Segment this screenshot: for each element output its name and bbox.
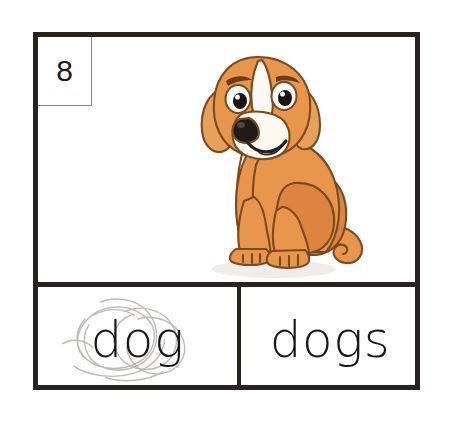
answer-option-1-label: dog — [91, 315, 185, 365]
answer-option-2-label: dogs — [270, 315, 390, 365]
dog-illustration: .ol { stroke:#7A4A21; stroke-width:2.1; … — [148, 43, 378, 287]
answer-row: dog dogs — [38, 287, 415, 385]
card-number-box: 8 — [38, 37, 92, 106]
card-number-label: 8 — [56, 56, 73, 86]
picture-panel: 8 .ol { stroke:#7A4A21; stroke-width:2.1… — [38, 37, 415, 287]
answer-option-2[interactable]: dogs — [241, 287, 415, 385]
worksheet-card: 8 .ol { stroke:#7A4A21; stroke-width:2.1… — [33, 32, 420, 390]
answer-option-1[interactable]: dog — [38, 287, 241, 385]
